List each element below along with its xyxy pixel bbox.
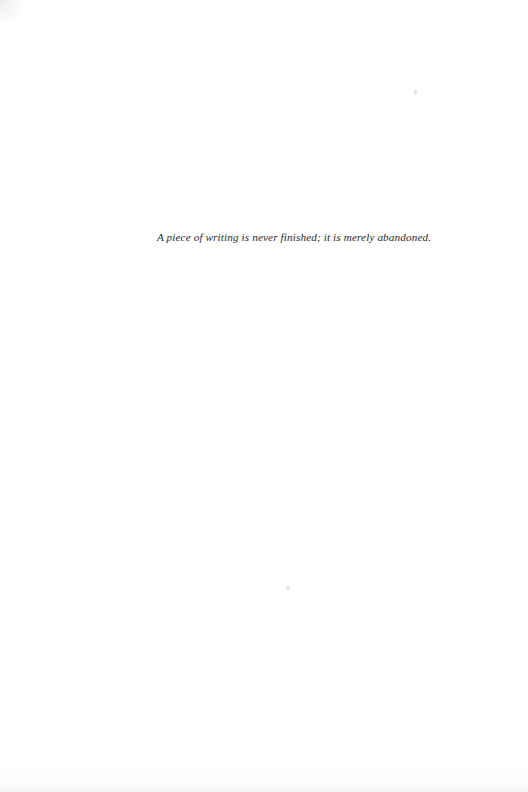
epigraph-text: A piece of writing is never finished; it… — [0, 230, 528, 245]
scan-artifact-speck-lower — [286, 586, 290, 590]
book-page: A piece of writing is never finished; it… — [0, 0, 528, 792]
scan-artifact-bottom-smudge — [0, 762, 528, 792]
scan-artifact-corner-tint — [0, 0, 26, 26]
scan-artifact-speck-upper — [414, 90, 417, 95]
